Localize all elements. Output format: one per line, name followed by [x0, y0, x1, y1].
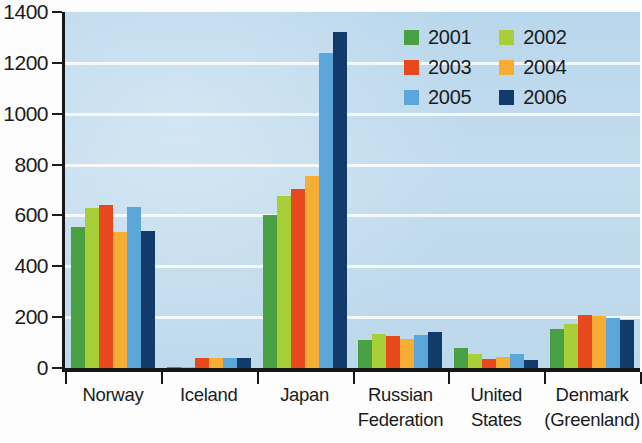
- bar: [524, 360, 538, 368]
- legend-label: 2006: [523, 86, 566, 109]
- bar: [620, 320, 634, 368]
- bar: [113, 232, 127, 368]
- legend-label: 2001: [428, 26, 471, 49]
- y-tick-label: 200: [14, 305, 48, 329]
- x-axis-label-line: Russian: [368, 384, 433, 405]
- bar: [358, 340, 372, 368]
- bar: [277, 196, 291, 368]
- bar: [510, 354, 524, 368]
- x-axis-category-label: UnitedStates: [470, 382, 522, 432]
- bar: [400, 339, 414, 368]
- x-axis-label-line: (Greenland): [544, 407, 639, 432]
- bar: [263, 215, 277, 368]
- bar: [414, 335, 428, 368]
- bar: [305, 176, 319, 368]
- x-axis-category-label: Norway: [82, 382, 143, 407]
- bar-group: [65, 12, 161, 368]
- y-tick-label: 0: [37, 356, 48, 380]
- legend-label: 2005: [428, 86, 471, 109]
- legend-item[interactable]: 2003: [404, 56, 471, 79]
- y-tick-label: 400: [14, 254, 48, 278]
- x-axis-label-line: Norway: [82, 384, 143, 405]
- bar: [592, 316, 606, 368]
- x-axis-label-line: Denmark: [556, 384, 629, 405]
- legend-color-swatch: [499, 60, 514, 75]
- bar-group: [161, 12, 257, 368]
- bar: [319, 53, 333, 368]
- y-tick-mark: [52, 316, 62, 318]
- bar: [237, 358, 251, 368]
- bar: [496, 357, 510, 368]
- x-axis-label-line: Federation: [358, 407, 443, 432]
- bar: [372, 334, 386, 368]
- legend-item[interactable]: 2004: [499, 56, 566, 79]
- bar: [333, 32, 347, 368]
- bar: [223, 358, 237, 368]
- bar: [209, 358, 223, 368]
- x-axis-label-line: Japan: [280, 384, 329, 405]
- x-axis-category-label: Japan: [280, 382, 329, 407]
- legend-color-swatch: [404, 90, 419, 105]
- legend-item[interactable]: 2006: [499, 86, 566, 109]
- bar-chart: 0200400600800100012001400 NorwayIcelandJ…: [0, 0, 642, 443]
- y-tick-mark: [52, 113, 62, 115]
- y-tick-label: 1200: [3, 51, 48, 75]
- bar: [564, 324, 578, 369]
- x-axis-label-line: United: [470, 384, 522, 405]
- bar: [195, 358, 209, 368]
- legend-color-swatch: [499, 90, 514, 105]
- bar: [127, 207, 141, 368]
- legend-label: 2004: [523, 56, 566, 79]
- legend-color-swatch: [404, 30, 419, 45]
- bar: [99, 205, 113, 368]
- legend-item[interactable]: 2002: [499, 26, 566, 49]
- bar: [386, 336, 400, 368]
- y-tick-label: 1000: [3, 102, 48, 126]
- bar: [578, 315, 592, 368]
- bar: [454, 348, 468, 368]
- bar: [428, 332, 442, 368]
- y-tick-label: 600: [14, 203, 48, 227]
- y-tick-label: 800: [14, 153, 48, 177]
- x-axis-category-label: Iceland: [180, 382, 238, 407]
- y-tick-mark: [52, 164, 62, 166]
- y-axis: 0200400600800100012001400: [0, 0, 62, 443]
- legend-color-swatch: [404, 60, 419, 75]
- x-axis-labels: NorwayIcelandJapanRussianFederationUnite…: [0, 382, 642, 443]
- bar: [141, 231, 155, 368]
- legend-item[interactable]: 2005: [404, 86, 471, 109]
- legend-item[interactable]: 2001: [404, 26, 471, 49]
- x-axis-category-label: Denmark(Greenland): [544, 382, 639, 432]
- legend-label: 2002: [523, 26, 566, 49]
- bar: [482, 359, 496, 368]
- legend: 200120022003200420052006: [404, 26, 567, 109]
- y-tick-mark: [52, 11, 62, 13]
- y-tick-mark: [52, 265, 62, 267]
- bar: [606, 318, 620, 368]
- bar: [71, 227, 85, 368]
- bar: [291, 189, 305, 368]
- legend-color-swatch: [499, 30, 514, 45]
- y-tick-mark: [52, 214, 62, 216]
- x-axis-label-line: States: [470, 407, 522, 432]
- y-tick-mark: [52, 367, 62, 369]
- bar: [550, 329, 564, 368]
- bar-group: [257, 12, 353, 368]
- legend-label: 2003: [428, 56, 471, 79]
- y-tick-label: 1400: [3, 0, 48, 24]
- x-axis-category-label: RussianFederation: [358, 382, 443, 432]
- x-axis-line: [62, 368, 640, 372]
- y-tick-mark: [52, 62, 62, 64]
- bar: [85, 208, 99, 368]
- x-axis-label-line: Iceland: [180, 384, 238, 405]
- bar: [468, 354, 482, 368]
